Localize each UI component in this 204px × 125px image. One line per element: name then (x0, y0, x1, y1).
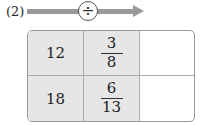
dividend-cell-row2: 18 (28, 76, 84, 121)
denominator: 13 (102, 100, 121, 116)
numerator: 3 (107, 36, 117, 52)
divide-icon: ÷ (78, 1, 98, 21)
divisor-cell-row2: 6 13 (84, 76, 140, 121)
answer-cell-row1[interactable] (140, 31, 194, 76)
dividend-cell-row1: 12 (28, 31, 84, 76)
answer-cell-row2[interactable] (140, 76, 194, 121)
fraction: 3 8 (101, 36, 123, 71)
denominator: 8 (107, 55, 117, 71)
division-table: 12 3 8 18 6 13 (27, 30, 195, 122)
numerator: 6 (107, 81, 117, 97)
problem-label: (2) (6, 4, 24, 19)
divisor-cell-row1: 3 8 (84, 31, 140, 76)
fraction: 6 13 (101, 81, 123, 116)
arrow-right-icon (133, 5, 144, 17)
